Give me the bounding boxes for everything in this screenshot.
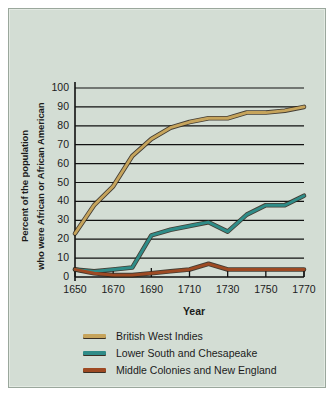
legend-label: British West Indies (116, 330, 203, 342)
chart-legend: British West IndiesLower South and Chesa… (9, 327, 327, 378)
chart-plot-area: Percent of the population who were Afric… (9, 9, 327, 319)
x-tick-label: 1670 (93, 283, 133, 295)
legend-swatch (83, 351, 106, 355)
legend-item: Lower South and Chesapeake (9, 344, 327, 361)
legend-item: Middle Colonies and New England (9, 361, 327, 378)
y-tick-label: 50 (41, 176, 69, 188)
x-tick-label: 1690 (131, 283, 171, 295)
legend-label: Middle Colonies and New England (116, 364, 277, 376)
y-tick-label: 80 (41, 119, 69, 131)
y-tick-label: 100 (41, 81, 69, 93)
legend-swatch (83, 334, 106, 338)
x-tick-label: 1750 (246, 283, 286, 295)
y-tick-label: 20 (41, 232, 69, 244)
y-tick-label: 30 (41, 213, 69, 225)
legend-item: British West Indies (9, 327, 327, 344)
x-tick-label: 1650 (55, 283, 95, 295)
y-tick-label: 10 (41, 251, 69, 263)
x-axis-title: Year (69, 305, 319, 317)
x-tick-label: 1730 (208, 283, 248, 295)
legend-label: Lower South and Chesapeake (116, 347, 257, 359)
legend-swatch (83, 368, 106, 372)
y-tick-label: 90 (41, 100, 69, 112)
chart-figure: Percent of the population who were Afric… (8, 8, 326, 388)
x-tick-label: 1770 (284, 283, 324, 295)
y-tick-label: 40 (41, 194, 69, 206)
y-tick-label: 70 (41, 138, 69, 150)
y-tick-label: 0 (41, 270, 69, 282)
y-tick-label: 60 (41, 157, 69, 169)
series-shadow-1 (75, 196, 304, 272)
x-tick-label: 1710 (170, 283, 210, 295)
